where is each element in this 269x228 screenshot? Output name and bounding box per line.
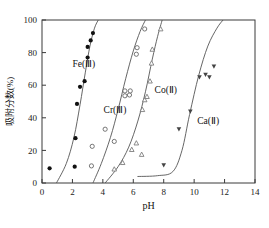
data-point [112, 167, 117, 171]
data-point [75, 102, 79, 106]
data-point [123, 89, 127, 93]
data-point [73, 165, 77, 169]
series-label-co: Co(Ⅱ) [155, 85, 177, 96]
data-point [134, 52, 138, 56]
y-tick-label: 0 [33, 178, 38, 188]
data-point [123, 94, 127, 98]
x-tick-label: 10 [190, 187, 200, 197]
adsorption-edge-chart: 02468101214020406080100pH吸附分数(%)Fe(Ⅲ)Cr(… [0, 0, 269, 228]
x-tick-label: 0 [40, 187, 45, 197]
x-tick-label: 2 [70, 187, 75, 197]
y-axis-title: 吸附分数(%) [4, 77, 15, 127]
data-point [150, 47, 155, 51]
curve-cr [93, 20, 145, 183]
data-point [128, 89, 132, 93]
data-point [89, 38, 93, 42]
x-tick-label: 6 [131, 187, 136, 197]
data-point [89, 164, 93, 168]
y-tick-label: 20 [28, 146, 38, 156]
series-label-fe: Fe(Ⅲ) [72, 59, 95, 70]
y-tick-label: 100 [24, 15, 38, 25]
curve-fe [56, 20, 98, 183]
x-tick-label: 12 [220, 187, 229, 197]
curve-ca [138, 20, 223, 176]
y-tick-label: 80 [28, 48, 38, 58]
x-tick-label: 4 [101, 187, 106, 197]
data-point [149, 61, 154, 65]
data-point [212, 65, 217, 69]
data-point [112, 139, 116, 143]
data-point [73, 136, 77, 140]
data-point [120, 160, 125, 164]
data-point [90, 144, 94, 148]
chart-canvas: 02468101214020406080100pH吸附分数(%)Fe(Ⅲ)Cr(… [0, 0, 269, 228]
data-point [139, 152, 144, 156]
data-point [78, 85, 82, 89]
data-point [129, 147, 134, 151]
data-point [127, 93, 131, 97]
data-point [140, 107, 145, 111]
data-point [83, 79, 87, 83]
y-tick-label: 60 [28, 80, 38, 90]
series-label-cr: Cr(Ⅲ) [104, 105, 127, 116]
data-point [145, 94, 150, 98]
x-tick-label: 8 [161, 187, 166, 197]
data-point [188, 109, 193, 113]
data-point [177, 127, 182, 131]
series-label-ca: Ca(Ⅱ) [197, 116, 219, 127]
data-point [86, 45, 90, 49]
x-axis-title: pH [142, 200, 154, 211]
data-point [135, 46, 139, 50]
data-point [48, 166, 52, 170]
data-point [103, 127, 107, 131]
plot-frame [42, 20, 255, 183]
curve-co [105, 20, 162, 183]
y-tick-label: 40 [28, 113, 38, 123]
data-point [143, 27, 147, 31]
data-point [161, 163, 166, 167]
data-point [158, 27, 163, 31]
data-point [207, 75, 212, 79]
data-point [203, 73, 208, 77]
data-point [134, 141, 139, 145]
x-tick-label: 14 [251, 187, 261, 197]
data-point [91, 31, 95, 35]
